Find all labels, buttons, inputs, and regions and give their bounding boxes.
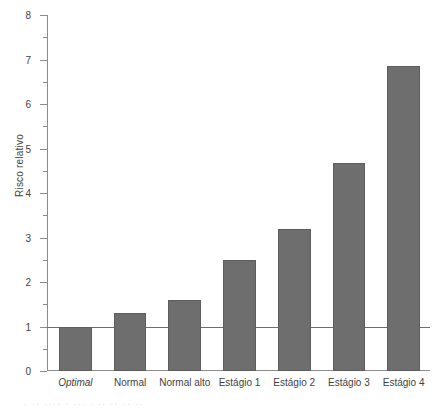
- bar-slot: [114, 15, 147, 371]
- x-category-label: Normal alto: [157, 377, 212, 388]
- y-tick-major: 3: [40, 238, 47, 239]
- y-tick-minor: [43, 171, 47, 172]
- y-tick-major: 2: [40, 282, 47, 283]
- y-tick-minor: [43, 349, 47, 350]
- y-tick-label: 3: [25, 232, 31, 243]
- bar: [333, 163, 366, 371]
- x-category-label: Normal: [103, 377, 158, 388]
- y-axis-title: Risco relativo: [14, 106, 25, 226]
- bar-slot: [59, 15, 92, 371]
- chart-figure: Risco relativo 012345678 OptimalNormalNo…: [0, 0, 440, 412]
- bar-slot: [387, 15, 420, 371]
- bar: [168, 300, 201, 371]
- bar-slot: [333, 15, 366, 371]
- bar-slot: [223, 15, 256, 371]
- x-category-label: Estágio 4: [376, 377, 431, 388]
- y-tick-label: 5: [25, 143, 31, 154]
- y-tick-major: 0: [40, 371, 47, 372]
- y-tick-major: 7: [40, 60, 47, 61]
- x-axis-category-labels: OptimalNormalNormal altoEstágio 1Estágio…: [48, 377, 430, 395]
- y-tick-major: 1: [40, 327, 47, 328]
- y-tick-label: 4: [25, 188, 31, 199]
- y-tick-label: 7: [25, 54, 31, 65]
- y-tick-minor: [43, 304, 47, 305]
- bar: [114, 313, 147, 371]
- y-tick-major: 5: [40, 149, 47, 150]
- caption-text: · ·· ···· · ··· · ·· ·· ·· ··: [24, 404, 144, 409]
- y-tick-label: 6: [25, 99, 31, 110]
- y-tick-minor: [43, 37, 47, 38]
- bar: [59, 327, 92, 372]
- y-tick-label: 0: [25, 366, 31, 377]
- bar-slot: [168, 15, 201, 371]
- y-tick-major: 8: [40, 15, 47, 16]
- bar: [278, 229, 311, 371]
- y-tick-label: 8: [25, 10, 31, 21]
- x-category-label: Estágio 2: [267, 377, 322, 388]
- y-tick-minor: [43, 82, 47, 83]
- y-tick-minor: [43, 215, 47, 216]
- bar-slot: [278, 15, 311, 371]
- plot-area: 012345678: [47, 15, 430, 371]
- y-tick-label: 1: [25, 321, 31, 332]
- bar: [223, 260, 256, 371]
- x-category-label: Optimal: [48, 377, 103, 388]
- y-tick-label: 2: [25, 277, 31, 288]
- y-tick-major: 4: [40, 193, 47, 194]
- y-tick-major: 6: [40, 104, 47, 105]
- y-tick-minor: [43, 260, 47, 261]
- x-category-label: Estágio 3: [322, 377, 377, 388]
- bar: [387, 66, 420, 371]
- cropped-caption-strip: · ·· ···· · ··· · ·· ·· ·· ··: [0, 404, 440, 412]
- x-category-label: Estágio 1: [212, 377, 267, 388]
- bar-series: [48, 15, 430, 371]
- y-tick-minor: [43, 126, 47, 127]
